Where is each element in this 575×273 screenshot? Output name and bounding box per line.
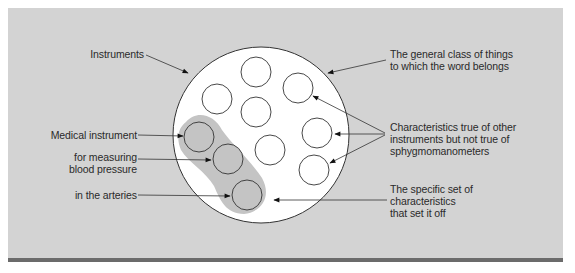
characteristic-circle — [202, 84, 232, 114]
label-measuring-1: for measuring — [40, 151, 137, 163]
arrow-instruments — [146, 55, 188, 73]
characteristic-circle — [283, 73, 313, 103]
label-instruments: Instruments — [40, 48, 144, 60]
characteristic-circle — [241, 97, 271, 127]
characteristic-circle — [299, 155, 329, 185]
characteristic-circle — [255, 135, 285, 165]
label-specific-set-3: that set it off — [390, 207, 446, 219]
characteristic-circle — [184, 122, 214, 152]
label-specific-set-1: The specific set of — [390, 183, 473, 195]
arrow-general-class — [328, 60, 386, 73]
label-characteristics-2: instruments but not true of — [390, 133, 509, 145]
label-general-class-2: to which the word belongs — [390, 60, 509, 72]
label-specific-set-2: characteristics — [390, 195, 456, 207]
label-general-class-1: The general class of things — [390, 48, 513, 60]
label-arteries: in the arteries — [40, 189, 137, 201]
characteristic-circle — [241, 57, 271, 87]
label-measuring-2: blood pressure — [40, 163, 137, 175]
characteristic-circle — [213, 144, 243, 174]
characteristic-circle — [302, 118, 332, 148]
label-characteristics-1: Characteristics true of other — [390, 121, 516, 133]
label-medical-instrument: Medical instrument — [20, 129, 137, 141]
characteristic-circle — [232, 180, 262, 210]
label-characteristics-3: sphygmomanometers — [390, 145, 489, 157]
